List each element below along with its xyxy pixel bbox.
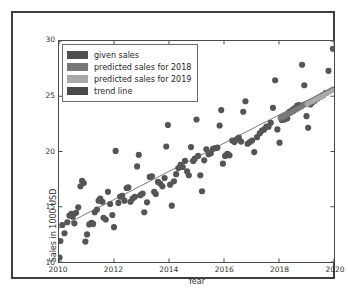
chart-legend: given salespredicted sales for 2018predi…	[62, 44, 198, 102]
plot-area: given salespredicted sales for 2018predi…	[58, 40, 335, 263]
data-point	[199, 188, 205, 194]
data-point	[159, 183, 165, 189]
data-point	[238, 138, 244, 144]
legend-item: predicted sales for 2018	[67, 61, 191, 73]
data-point	[325, 68, 331, 74]
data-point	[163, 143, 169, 149]
legend-swatch-icon	[67, 87, 88, 95]
data-point	[242, 98, 248, 104]
data-point	[303, 113, 309, 119]
legend-label: trend line	[94, 87, 132, 96]
data-point	[226, 152, 232, 158]
legend-label: predicted sales for 2018	[94, 63, 191, 72]
x-tick-label: 2020	[325, 265, 344, 274]
y-tick-label: 30	[45, 36, 55, 44]
data-point	[75, 204, 81, 210]
data-point	[240, 109, 246, 115]
data-point	[305, 125, 311, 131]
data-point	[188, 144, 194, 150]
legend-swatch-icon	[67, 75, 88, 83]
legend-label: given sales	[94, 51, 139, 60]
data-point	[299, 62, 305, 68]
data-point	[136, 152, 142, 158]
data-point	[82, 238, 88, 244]
data-point	[111, 224, 117, 230]
data-point	[171, 178, 177, 184]
x-tick-label: 2012	[104, 265, 123, 274]
series-predicted-sales-for-2018	[278, 101, 308, 120]
series-trend-line	[59, 87, 334, 228]
data-point	[132, 194, 138, 200]
data-point	[195, 153, 201, 159]
legend-swatch-icon	[67, 63, 88, 71]
x-axis-tick-labels: 201020122014201620182020	[58, 265, 335, 277]
legend-item: given sales	[67, 49, 191, 61]
data-point	[193, 116, 199, 122]
data-point	[169, 203, 175, 209]
data-point	[113, 148, 119, 154]
data-point	[103, 216, 109, 222]
data-point	[186, 172, 192, 178]
data-point	[165, 122, 171, 128]
data-point	[173, 171, 179, 177]
data-point	[134, 163, 140, 169]
data-point	[84, 231, 90, 237]
x-tick-label: 2016	[215, 265, 234, 274]
data-point	[301, 82, 307, 88]
data-point	[270, 105, 276, 111]
data-point	[153, 191, 159, 197]
data-point	[220, 161, 226, 167]
data-point	[115, 200, 121, 206]
data-point	[218, 107, 224, 113]
data-point	[149, 173, 155, 179]
legend-item: trend line	[67, 85, 191, 97]
data-point	[272, 77, 278, 83]
data-point	[125, 184, 131, 190]
data-point	[59, 238, 63, 244]
data-point	[81, 180, 87, 186]
x-tick-label: 2014	[159, 265, 178, 274]
y-axis-title-wrapper: Sales in 1000 USD	[37, 91, 49, 211]
trend-line	[59, 87, 334, 228]
data-point	[99, 199, 105, 205]
data-point	[140, 190, 146, 196]
data-point	[121, 198, 127, 204]
data-point	[105, 189, 111, 195]
data-point	[180, 164, 186, 170]
data-point	[59, 255, 63, 261]
data-point	[141, 209, 147, 215]
figure-root: 1015202530 Sales in 1000 USD given sales…	[0, 0, 348, 298]
legend-label: predicted sales for 2019	[94, 75, 191, 84]
data-point	[330, 46, 334, 52]
legend-item: predicted sales for 2019	[67, 73, 191, 85]
data-point	[274, 126, 280, 132]
data-point	[276, 140, 282, 146]
legend-swatch-icon	[67, 51, 88, 59]
data-point	[61, 230, 67, 236]
data-point	[217, 122, 223, 128]
x-axis-title: Year	[58, 277, 335, 286]
figure-outer-border: 1015202530 Sales in 1000 USD given sales…	[11, 11, 335, 279]
data-point	[73, 210, 79, 216]
data-point	[251, 149, 257, 155]
x-tick-label: 2018	[270, 265, 289, 274]
data-point	[109, 212, 115, 218]
data-point	[197, 172, 203, 178]
x-tick-label: 2010	[48, 265, 67, 274]
data-point	[201, 157, 207, 163]
data-point	[90, 221, 96, 227]
data-point	[144, 199, 150, 205]
data-point	[162, 175, 168, 181]
